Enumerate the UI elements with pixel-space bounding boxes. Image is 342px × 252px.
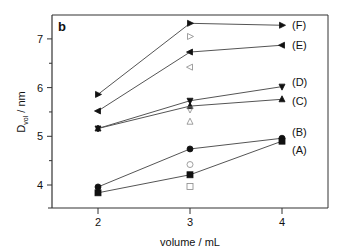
- series-label: (B): [292, 126, 307, 138]
- y-axis-label: Dvol / nm: [15, 91, 29, 132]
- triangle-left-filled-marker: [279, 42, 285, 48]
- square-filled-marker: [279, 138, 285, 144]
- triangle-left-filled-marker: [95, 108, 101, 114]
- y-tick-label: 4: [37, 179, 43, 191]
- square-filled-marker: [95, 190, 101, 196]
- circle-filled-marker: [95, 184, 101, 190]
- triangle-left-open-marker: [187, 64, 193, 70]
- series-line: [98, 138, 282, 187]
- triangle-right-filled-marker: [280, 22, 286, 28]
- x-axis-ticks: 234: [95, 208, 285, 228]
- x-axis-label: volume / mL: [160, 236, 220, 248]
- triangle-up-open-marker: [187, 118, 193, 124]
- series-label: (F): [292, 19, 306, 31]
- series-label: (A): [292, 144, 307, 156]
- x-tick-label: 4: [279, 216, 285, 228]
- x-tick-label: 3: [187, 216, 193, 228]
- series-label: (D): [292, 76, 307, 88]
- circle-filled-marker: [187, 146, 193, 152]
- triangle-right-filled-marker: [188, 20, 194, 26]
- triangle-right-open-marker: [188, 33, 194, 39]
- x-tick-label: 2: [95, 216, 101, 228]
- y-tick-label: 5: [37, 130, 43, 142]
- series-labels: (F)(E)(D)(C)(B)(A): [292, 19, 307, 156]
- open-markers: [187, 33, 194, 189]
- y-tick-label: 7: [37, 33, 43, 45]
- y-tick-label: 6: [37, 82, 43, 94]
- series-line: [98, 23, 282, 94]
- plot-frame: [48, 15, 328, 208]
- triangle-up-filled-marker: [279, 96, 285, 102]
- square-filled-marker: [187, 172, 193, 178]
- panel-label: b: [58, 19, 66, 34]
- square-open-marker: [187, 183, 193, 189]
- chart-container: 234 4567 (F)(E)(D)(C)(B)(A) b volume / m…: [0, 0, 342, 252]
- series-label: (C): [292, 95, 307, 107]
- line-chart: 234 4567 (F)(E)(D)(C)(B)(A) b volume / m…: [0, 0, 342, 252]
- series-label: (E): [292, 39, 307, 51]
- circle-open-marker: [187, 162, 193, 168]
- y-axis-ticks: 4567: [37, 33, 52, 191]
